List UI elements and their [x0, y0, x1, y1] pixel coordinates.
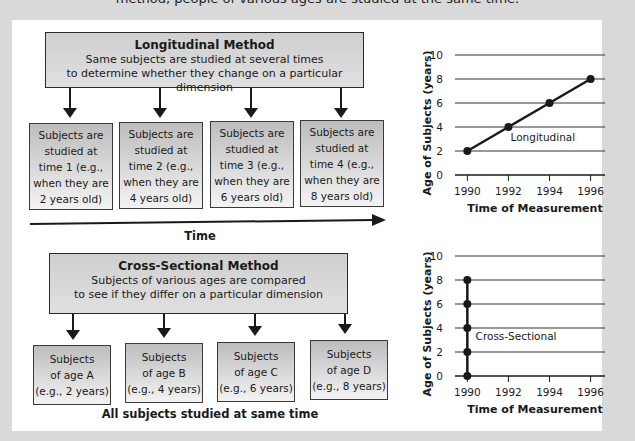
x-tick-label: 1994: [536, 386, 563, 398]
series-label: Longitudinal: [510, 131, 575, 143]
longitudinal-desc-2: to determine whether they change on a pa…: [46, 67, 363, 95]
longitudinal-title: Longitudinal Method: [46, 37, 363, 53]
cross-sectional-title: Cross-Sectional Method: [50, 258, 347, 274]
y-tick-label: 2: [436, 145, 443, 157]
time-arrow-line: [30, 220, 374, 224]
cross-sectional-desc-1: Subjects of various ages are compared: [50, 274, 347, 288]
y-tick-label: 6: [436, 298, 443, 310]
longitudinal-method-box: Longitudinal Method Same subjects are st…: [45, 32, 364, 88]
x-tick-label: 1990: [454, 185, 481, 197]
arrow-down-icon: [72, 314, 74, 332]
x-tick-label: 1996: [577, 386, 604, 398]
series-label: Cross-Sectional: [476, 330, 557, 342]
cross-sectional-age-box-c: Subjects of age C (e.g., 6 years): [217, 342, 295, 402]
y-tick-label: 0: [436, 169, 443, 181]
x-tick-label: 1992: [495, 386, 522, 398]
x-tick-label: 1996: [577, 185, 604, 197]
longitudinal-time-box-2: Subjects are studied at time 2 (e.g., wh…: [119, 122, 203, 209]
longitudinal-time-box-3: Subjects are studied at time 3 (e.g., wh…: [210, 121, 294, 208]
x-axis-label: Time of Measurement: [467, 202, 602, 215]
longitudinal-chart: 02468101990199219941996Time of Measureme…: [405, 40, 620, 220]
y-tick-label: 4: [436, 322, 443, 334]
y-tick-label: 0: [436, 370, 443, 382]
y-axis-label: Age of Subjects (years): [421, 252, 434, 397]
y-tick-label: 8: [436, 274, 443, 286]
data-point: [463, 300, 471, 308]
data-point: [463, 348, 471, 356]
data-point: [504, 123, 512, 131]
cross-sectional-age-box-a: Subjects of age A (e.g., 2 years): [33, 345, 111, 405]
longitudinal-time-box-1: Subjects are studied at time 1 (e.g., wh…: [29, 123, 113, 210]
x-tick-label: 1992: [495, 185, 522, 197]
time-label: Time: [170, 229, 230, 243]
data-point: [463, 372, 471, 380]
time-arrow-head-icon: [372, 214, 386, 226]
longitudinal-time-box-4: Subjects are studied at time 4 (e.g., wh…: [300, 120, 384, 207]
cross-sectional-age-box-b: Subjects of age B (e.g., 4 years): [125, 343, 203, 403]
arrow-down-icon: [69, 88, 71, 110]
arrow-down-icon: [163, 314, 165, 330]
y-axis-label: Age of Subjects (years): [421, 51, 434, 196]
x-tick-label: 1990: [454, 386, 481, 398]
data-point: [463, 147, 471, 155]
cross-sectional-chart: 02468101990199219941996Time of Measureme…: [405, 241, 620, 421]
data-point: [546, 99, 554, 107]
time-arrow: [28, 210, 390, 230]
top-caption: method, people of various ages are studi…: [0, 0, 635, 6]
data-point: [463, 276, 471, 284]
arrow-down-icon: [340, 88, 342, 110]
same-time-label: All subjects studied at same time: [100, 407, 320, 421]
data-point: [463, 324, 471, 332]
y-tick-label: 2: [436, 346, 443, 358]
arrow-down-icon: [254, 314, 256, 328]
x-axis-label: Time of Measurement: [467, 403, 602, 416]
y-tick-label: 4: [436, 121, 443, 133]
data-point: [587, 75, 595, 83]
cross-sectional-method-box: Cross-Sectional Method Subjects of vario…: [49, 253, 348, 314]
arrow-down-icon: [159, 88, 161, 110]
cross-sectional-age-box-d: Subjects of age D (e.g., 8 years): [310, 340, 388, 400]
cross-sectional-desc-2: to see if they differ on a particular di…: [50, 288, 347, 302]
arrow-down-icon: [344, 314, 346, 326]
x-tick-label: 1994: [536, 185, 563, 197]
arrow-down-icon: [250, 88, 252, 110]
y-tick-label: 6: [436, 97, 443, 109]
longitudinal-desc-1: Same subjects are studied at several tim…: [46, 53, 363, 67]
y-tick-label: 8: [436, 73, 443, 85]
